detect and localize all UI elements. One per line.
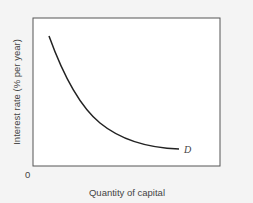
x-axis-label: Quantity of capital	[89, 187, 165, 198]
y-axis-label: Interest rate (% per year)	[11, 39, 22, 145]
origin-label: 0	[25, 169, 30, 180]
chart-svg: D 0 Quantity of capital Interest rate (%…	[0, 0, 253, 203]
demand-for-capital-chart: D 0 Quantity of capital Interest rate (%…	[0, 0, 253, 203]
curve-label-d: D	[183, 144, 192, 155]
plot-frame	[33, 18, 220, 166]
